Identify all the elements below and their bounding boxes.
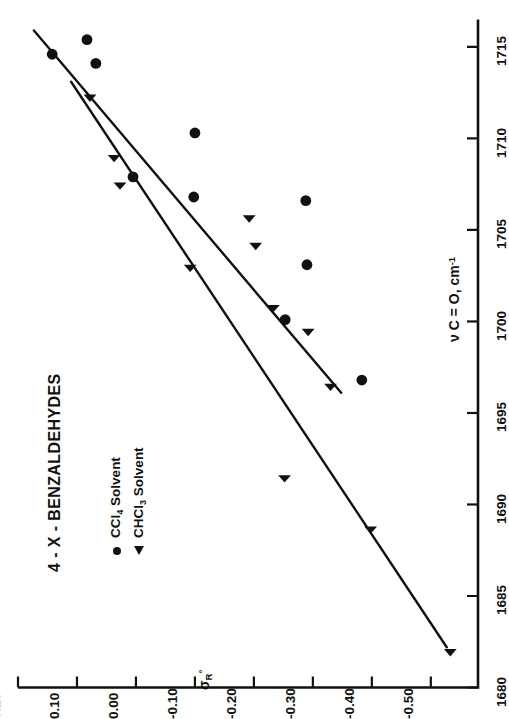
nu-tick-label: 1710: [494, 128, 509, 158]
legend-item-ccl4: CCl4 Solvent: [108, 447, 125, 556]
nu-tick-label: 1700: [494, 311, 509, 341]
sigma-tick-label: -0.10: [165, 688, 180, 719]
legend: CCl4 Solvent CHCl3 Solvent: [108, 447, 153, 556]
page-title: 4 - X - BENZALDEHYDES: [46, 373, 64, 572]
nu-tick-label: 1715: [494, 36, 509, 66]
sigma-tick-label: -0.50: [401, 688, 416, 719]
nu-tick-label: 1705: [494, 219, 509, 249]
nu-axis-label: ν C = O, cm-1: [446, 257, 462, 342]
sigma-tick-label: 0.10: [47, 693, 62, 719]
sigma-tick-label: -0.40: [342, 688, 357, 719]
sigma-tick-label: -0.20: [224, 688, 239, 719]
sigma-tick-label: 0.00: [106, 693, 121, 719]
legend-item-chcl3: CHCl3 Solvent: [131, 447, 148, 556]
sigma-tick-label: -0.30: [283, 688, 298, 719]
sigma-axis-label: σR°: [196, 670, 214, 690]
nu-tick-label: 1680: [494, 677, 509, 707]
circle-marker-icon: [111, 545, 122, 556]
triangle-marker-icon: [133, 545, 144, 556]
nu-tick-label: 1695: [494, 402, 509, 432]
nu-tick-label: 1690: [494, 494, 509, 524]
legend-label-ccl4: CCl4 Solvent: [108, 457, 125, 538]
legend-label-chcl3: CHCl3 Solvent: [131, 447, 148, 538]
nu-tick-label: 1685: [494, 585, 509, 615]
sigma-tick-label: 0.20: [0, 693, 3, 719]
